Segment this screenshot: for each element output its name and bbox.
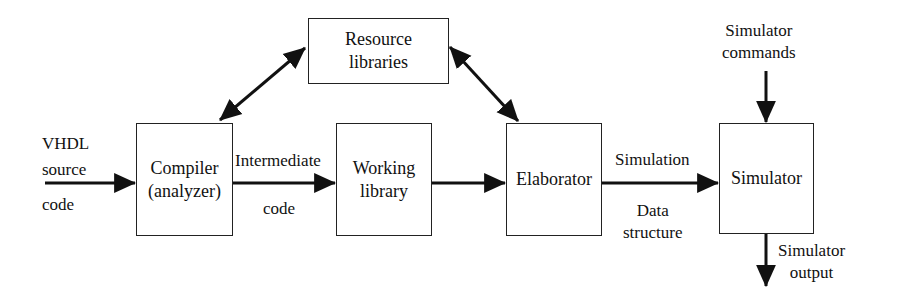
arrow-elaborator-resource-bidirectional bbox=[450, 47, 518, 121]
block-elaborator: Elaborator bbox=[506, 123, 602, 236]
block-resource-libraries-label: Resource libraries bbox=[345, 28, 412, 74]
block-simulator: Simulator bbox=[719, 123, 814, 234]
label-simulator-commands: Simulator commands bbox=[722, 20, 796, 64]
block-simulator-label: Simulator bbox=[731, 167, 802, 190]
label-data-structure: Data structure bbox=[623, 200, 682, 244]
label-code: code bbox=[42, 194, 74, 216]
label-simulation: Simulation bbox=[615, 149, 690, 171]
label-intermediate: Intermediate bbox=[235, 150, 321, 172]
block-resource-libraries: Resource libraries bbox=[308, 18, 449, 84]
block-elaborator-label: Elaborator bbox=[516, 168, 592, 191]
block-compiler-label: Compiler (analyzer) bbox=[148, 157, 221, 203]
label-source: source bbox=[42, 159, 86, 181]
block-compiler: Compiler (analyzer) bbox=[136, 123, 233, 236]
block-working-library: Working library bbox=[336, 123, 432, 236]
arrow-compiler-resource-bidirectional bbox=[220, 48, 305, 120]
label-intermediate-code: code bbox=[263, 198, 295, 220]
block-working-library-label: Working library bbox=[353, 157, 416, 203]
label-vhdl: VHDL bbox=[42, 133, 89, 155]
label-simulator-output: Simulator output bbox=[778, 240, 845, 284]
